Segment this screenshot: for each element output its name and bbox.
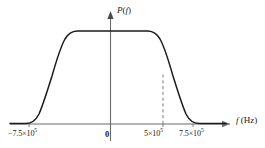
x-axis-unit: (Hz): [241, 115, 258, 125]
y-axis-title: P(f): [117, 6, 131, 15]
x-tick-label-mid-positive: 5×105: [144, 130, 163, 138]
x-tick-label-mid-positive-exponent: 5: [160, 127, 163, 133]
x-tick-label-negative: −7.5×105: [8, 130, 37, 138]
psd-curve: [10, 31, 226, 124]
x-tick-label-right-positive-mantissa: 7.5×10: [179, 129, 201, 138]
x-axis-title: f (Hz): [236, 116, 257, 125]
spectral-density-figure: P(f) f (Hz) −7.5×105 0 5×105 7.5×105: [0, 0, 265, 148]
x-tick-label-negative-exponent: 5: [34, 127, 37, 133]
x-tick-label-mid-positive-mantissa: 5×10: [144, 129, 160, 138]
x-tick-label-negative-mantissa: −7.5×10: [8, 129, 34, 138]
plot-canvas: [0, 0, 265, 148]
y-axis-arrowhead: [107, 11, 113, 19]
x-tick-label-right-positive: 7.5×105: [179, 130, 204, 138]
y-axis-arg: f: [126, 5, 129, 15]
y-axis-symbol: P: [117, 5, 123, 15]
x-tick-label-right-positive-exponent: 5: [201, 127, 204, 133]
x-tick-label-origin: 0: [105, 130, 109, 139]
x-axis-symbol: f: [236, 115, 239, 125]
